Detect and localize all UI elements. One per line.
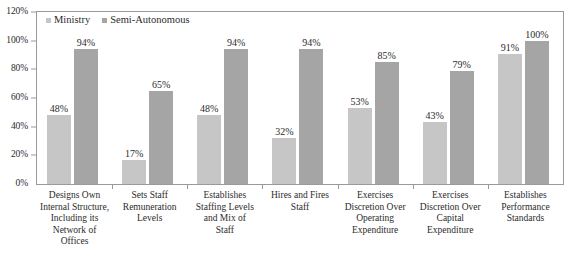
x-axis-category-label-line: Expenditure [413,225,488,237]
bar-value-label: 91% [501,43,519,53]
bar-ministry[interactable]: 43% [423,122,447,184]
bar-semi-autonomous[interactable]: 100% [525,41,549,184]
legend-item-semi-autonomous[interactable]: Semi-Autonomous [102,15,189,26]
x-axis-category-label-line: Establishes [488,190,563,202]
bar-semi-autonomous[interactable]: 65% [149,91,173,184]
legend-item-ministry[interactable]: Ministry [46,15,90,26]
x-axis-category-label: Designs OwnInternal Structure,Including … [37,190,112,248]
y-axis-tick-label: 100% [6,36,28,46]
x-axis-category-label-line: Offices [37,236,112,248]
x-axis-tick-mark [187,185,188,189]
legend-swatch-icon [46,18,51,23]
y-axis-tick-label: 40% [11,122,28,132]
x-axis-category-label: EstablishesPerformanceStandards [488,190,563,225]
x-axis-category-label-line: Sets Staff [112,190,187,202]
bar-ministry[interactable]: 48% [47,115,71,184]
y-axis: 0%20%40%60%80%100%120% [0,11,32,185]
x-axis-category-label-line: Staff [187,225,262,237]
bar-value-label: 43% [426,111,444,121]
x-axis-category-label-line: Exercises [413,190,488,202]
x-axis-category-label-line: Discretion Over [338,202,413,214]
bar-value-label: 94% [302,38,320,48]
x-axis-category-label-line: Standards [488,213,563,225]
x-axis-category-label: ExercisesDiscretion OverOperatingExpendi… [338,190,413,236]
x-axis-tick-mark [262,185,263,189]
bar-value-label: 85% [377,51,395,61]
bar-value-label: 48% [50,104,68,114]
x-axis-category-label-line: Internal Structure, [37,202,112,214]
bar-ministry[interactable]: 91% [498,54,522,184]
x-axis-category-label-line: Staffing Levels [187,202,262,214]
bar-group: 48%94% [37,12,112,184]
bar-value-label: 94% [227,38,245,48]
bar-semi-autonomous[interactable]: 94% [74,49,98,184]
bar-semi-autonomous[interactable]: 79% [450,71,474,184]
legend-swatch-icon [102,18,107,23]
x-axis-category-label-line: Establishes [187,190,262,202]
x-axis-category-label-line: and Mix of [187,213,262,225]
x-axis-tick-mark [488,185,489,189]
x-axis-tick-mark [112,185,113,189]
x-axis-category-label: Sets StaffRemunerationLevels [112,190,187,225]
x-axis-category-label: EstablishesStaffing Levelsand Mix ofStaf… [187,190,262,236]
x-axis-category-label-line: Expenditure [338,225,413,237]
bar-value-label: 17% [125,149,143,159]
x-axis-category-label-line: Remuneration [112,202,187,214]
bar-value-label: 32% [275,127,293,137]
bar-semi-autonomous[interactable]: 94% [299,49,323,184]
bars-layer: 48%94%17%65%48%94%32%94%53%85%43%79%91%1… [37,12,563,184]
y-axis-tick-label: 0% [16,179,28,189]
bar-ministry[interactable]: 53% [348,108,372,184]
bar-value-label: 100% [525,30,548,40]
x-axis-category-label: ExercisesDiscretion OverCapitalExpenditu… [413,190,488,236]
x-axis-category-label: Hires and FiresStaff [262,190,337,213]
bar-group: 43%79% [413,12,488,184]
bar-chart: 0%20%40%60%80%100%120% MinistrySemi-Auto… [0,0,570,255]
x-axis-category-label-line: Including its [37,213,112,225]
y-axis-tick-label: 80% [11,65,28,75]
x-axis-category-label-line: Exercises [338,190,413,202]
chart-legend: MinistrySemi-Autonomous [46,15,190,26]
legend-label: Ministry [54,15,90,26]
bar-value-label: 65% [152,80,170,90]
bar-group: 91%100% [488,12,563,184]
y-axis-tick-label: 60% [11,93,28,103]
bar-ministry[interactable]: 17% [122,160,146,184]
y-axis-tick-label: 20% [11,151,28,161]
x-axis-category-label-line: Operating [338,213,413,225]
bar-group: 53%85% [338,12,413,184]
x-axis-category-label-line: Capital [413,213,488,225]
x-axis-category-label-line: Network of [37,225,112,237]
x-axis-category-label-line: Discretion Over [413,202,488,214]
x-axis-category-label-line: Hires and Fires [262,190,337,202]
x-axis-category-label-line: Designs Own [37,190,112,202]
y-axis-tick-label: 120% [6,7,28,17]
bar-ministry[interactable]: 32% [272,138,296,184]
x-axis-category-label-line: Performance [488,202,563,214]
x-axis-labels: Designs OwnInternal Structure,Including … [37,190,563,254]
x-axis-category-label-line: Levels [112,213,187,225]
bar-group: 17%65% [112,12,187,184]
bar-group: 48%94% [187,12,262,184]
bar-group: 32%94% [262,12,337,184]
bar-ministry[interactable]: 48% [197,115,221,184]
x-axis-category-label-line: Staff [262,202,337,214]
x-axis-tick-mark [413,185,414,189]
bar-semi-autonomous[interactable]: 85% [375,62,399,184]
legend-label: Semi-Autonomous [110,15,189,26]
bar-value-label: 79% [453,60,471,70]
bar-value-label: 48% [200,104,218,114]
bar-value-label: 53% [350,97,368,107]
bar-semi-autonomous[interactable]: 94% [224,49,248,184]
x-axis-tick-mark [338,185,339,189]
bar-value-label: 94% [77,38,95,48]
